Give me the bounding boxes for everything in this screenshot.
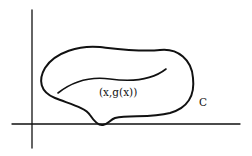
diagram-canvas: (x,g(x)) C xyxy=(0,0,252,156)
curve-label: (x,g(x)) xyxy=(99,86,137,98)
region-label: C xyxy=(199,96,207,108)
